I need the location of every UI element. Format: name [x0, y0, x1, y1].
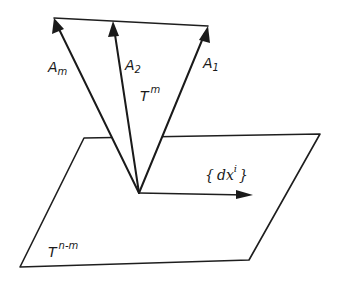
- label-a1: A1: [202, 55, 219, 73]
- fan-mask: [54, 18, 208, 193]
- arrowhead-dxi: [236, 190, 253, 199]
- label-am: Am: [47, 59, 68, 77]
- label-plane-tnm: Tn-m: [48, 240, 79, 260]
- vector-dxi: [139, 193, 246, 195]
- diagram-canvas: Am A2 A1 Tm Tn-m {dxi}: [0, 0, 338, 288]
- label-dxi: {dxi}: [205, 163, 248, 183]
